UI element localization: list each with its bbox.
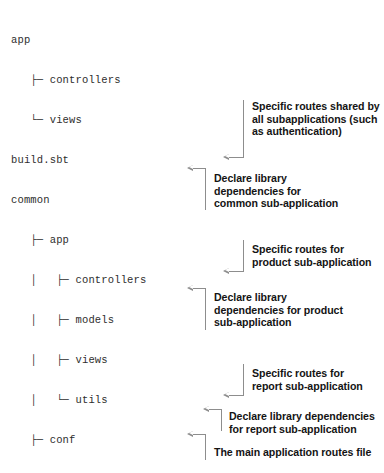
tree-row: ├─ app xyxy=(11,234,166,247)
project-directory-tree: app ├─ controllers └─ views build.sbt co… xyxy=(11,7,166,473)
tree-row: common xyxy=(11,194,166,207)
annotation-common-buildsbt: Declare library dependencies for common … xyxy=(214,172,364,210)
annotation-product-routes: Specific routes for product sub-applicat… xyxy=(252,243,384,268)
tree-row: │ ├─ models xyxy=(11,314,166,327)
annotation-report-buildsbt: Declare library dependencies for report … xyxy=(229,410,384,435)
tree-row: └─ views xyxy=(11,114,166,127)
tree-row: build.sbt xyxy=(11,154,166,167)
annotation-main-routes: The main application routes file xyxy=(214,446,380,459)
annotation-product-buildsbt: Declare library dependencies for product… xyxy=(214,291,372,329)
tree-row: │ └─ utils xyxy=(11,394,166,407)
annotation-commons-routes: Specific routes shared by all subapplica… xyxy=(252,100,382,138)
tree-row: app xyxy=(11,34,166,47)
tree-row: │ ├─ views xyxy=(11,354,166,367)
annotation-report-routes: Specific routes for report sub-applicati… xyxy=(252,367,384,392)
tree-row: ├─ conf xyxy=(11,434,166,447)
tree-row: │ ├─ controllers xyxy=(11,274,166,287)
tree-row: ├─ controllers xyxy=(11,74,166,87)
